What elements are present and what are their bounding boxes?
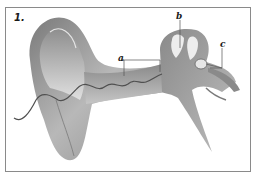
label-b: b [176, 12, 182, 21]
label-c: c [220, 40, 225, 49]
ear-illustration [0, 0, 258, 177]
label-a: a [118, 54, 124, 63]
figure-number: 1. [14, 12, 25, 23]
